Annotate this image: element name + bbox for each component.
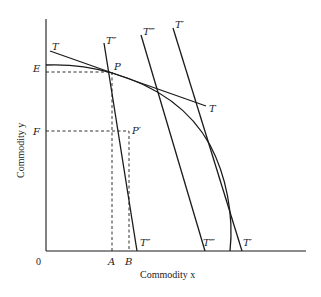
label-B: B (124, 256, 132, 267)
label-T3-bottom: T‴ (203, 237, 216, 248)
y-axis-label: Commodity y (15, 123, 26, 178)
label-F: F (32, 126, 41, 137)
label-T-right: T (209, 103, 217, 114)
line-T-triple-prime (141, 35, 205, 251)
line-T-prime (173, 28, 242, 251)
label-A: A (107, 256, 115, 267)
label-T1-bottom: T′ (243, 237, 253, 248)
label-T2-bottom: T″ (140, 237, 151, 248)
label-P: P (113, 61, 121, 72)
label-T3-top: T‴ (143, 26, 156, 37)
label-T1-top: T′ (175, 19, 185, 30)
guide-F-Pprime-B (46, 131, 129, 251)
label-P-prime: P′ (131, 125, 142, 136)
production-possibility-curve (46, 65, 231, 251)
line-T-double-prime (104, 43, 137, 251)
label-T2-top: T″ (106, 35, 117, 46)
ppf-diagram: T T T″ T‴ T′ T″ T‴ T′ P P′ E F A B 0 Com… (0, 0, 321, 297)
origin-label: 0 (36, 256, 41, 267)
x-axis-label: Commodity x (140, 269, 195, 280)
guide-E-P-A (46, 72, 112, 251)
label-T-top: T (52, 41, 60, 52)
label-E: E (32, 63, 41, 74)
